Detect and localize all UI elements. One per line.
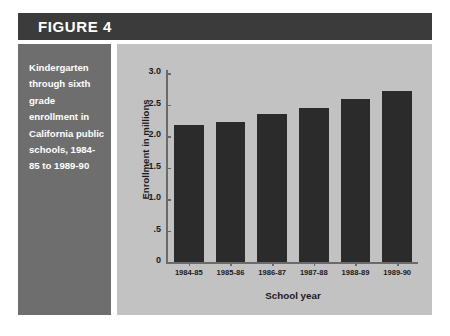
x-axis-tick — [355, 262, 357, 266]
x-axis-tick — [272, 262, 274, 266]
x-axis-tick — [189, 262, 191, 266]
x-axis-tick-label: 1986-87 — [258, 268, 286, 277]
bar-slot: 1989-90 — [376, 73, 418, 262]
figure-caption-text: Kindergarten through sixth grade enrollm… — [29, 60, 105, 175]
plot-area: 0.51.01.52.02.53.0 1984-851985-861986-87… — [168, 73, 418, 262]
y-axis-tick-label: 3.0 — [148, 66, 161, 76]
bar — [257, 114, 287, 262]
figure-container: FIGURE 4 Kindergarten through sixth grad… — [0, 0, 450, 336]
y-axis-tick-label: 0 — [156, 255, 161, 265]
bar-slot: 1984-85 — [168, 73, 210, 262]
x-axis-tick — [230, 262, 232, 266]
y-axis-tick-label: 1.0 — [148, 192, 161, 202]
bar-slot: 1988-89 — [335, 73, 377, 262]
bar — [341, 99, 371, 262]
x-axis-tick — [314, 262, 316, 266]
x-axis-tick-label: 1984-85 — [175, 268, 203, 277]
figure-caption-panel: Kindergarten through sixth grade enrollm… — [18, 44, 111, 315]
figure-number-label: FIGURE 4 — [38, 18, 112, 35]
x-axis-tick-label: 1989-90 — [383, 268, 411, 277]
y-axis-tick-label: 2.0 — [148, 129, 161, 139]
x-axis-title: School year — [168, 290, 418, 301]
bar-slot: 1987-88 — [293, 73, 335, 262]
chart-panel: Enrollment in millions 0.51.01.52.02.53.… — [117, 44, 432, 315]
x-axis-tick-label: 1985-86 — [217, 268, 245, 277]
bar-slot: 1985-86 — [210, 73, 252, 262]
x-axis-tick-label: 1987-88 — [300, 268, 328, 277]
bar — [299, 108, 329, 262]
y-axis-tick-label: 2.5 — [148, 98, 161, 108]
x-axis-tick — [397, 262, 399, 266]
figure-header-bar: FIGURE 4 — [18, 13, 432, 40]
x-axis-tick-label: 1988-89 — [342, 268, 370, 277]
x-axis-line — [166, 262, 418, 264]
y-axis-tick-label: .5 — [153, 224, 161, 234]
y-axis-tick: 0 — [166, 262, 171, 264]
bar-slot: 1986-87 — [251, 73, 293, 262]
y-axis-tick-label: 1.5 — [148, 161, 161, 171]
bar — [174, 125, 204, 262]
bar — [216, 122, 246, 262]
bar — [382, 91, 412, 262]
